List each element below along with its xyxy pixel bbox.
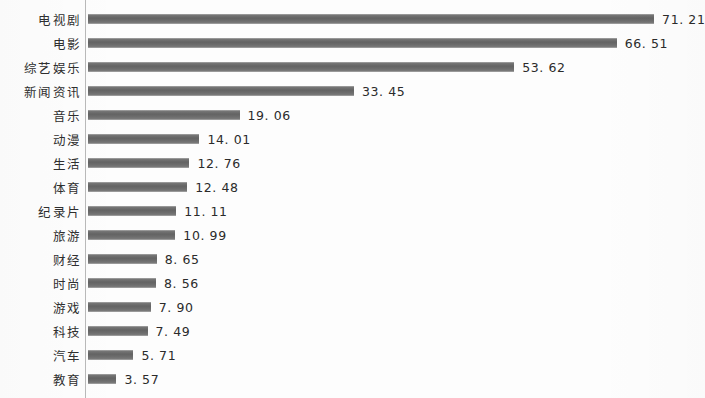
- category-label: 电影: [53, 34, 81, 53]
- bar: [88, 303, 151, 312]
- bar-value-label: 12. 48: [195, 180, 238, 195]
- category-label: 体育: [53, 178, 81, 197]
- bar: [88, 135, 199, 144]
- bar-value-label: 19. 06: [248, 108, 291, 123]
- bar: [88, 159, 189, 168]
- bar-value-label: 10. 99: [183, 228, 226, 243]
- bar-value-label: 66. 51: [625, 36, 668, 51]
- bar: [88, 231, 175, 240]
- plot-area: 电视剧71. 21电影66. 51综艺娱乐53. 62新闻资讯33. 45音乐1…: [0, 0, 705, 398]
- bar-value-label: 8. 56: [164, 276, 199, 291]
- bar-row: 游戏7. 90: [0, 295, 705, 319]
- bar-value-label: 33. 45: [362, 84, 405, 99]
- category-label: 时尚: [53, 274, 81, 293]
- category-label: 纪录片: [38, 202, 81, 221]
- bar-row: 其他5. 68: [0, 391, 705, 398]
- bar-value-label: 5. 71: [141, 348, 176, 363]
- bar: [88, 279, 156, 288]
- bar-row: 教育3. 57: [0, 367, 705, 391]
- bar-row: 生活12. 76: [0, 151, 705, 175]
- bar-value-label: 3. 57: [124, 372, 159, 387]
- bar: [88, 39, 617, 48]
- category-label: 游戏: [53, 298, 81, 317]
- bar: [88, 111, 240, 120]
- bar: [88, 375, 116, 384]
- bar: [88, 15, 654, 24]
- bar-row: 新闻资讯33. 45: [0, 79, 705, 103]
- category-label: 科技: [53, 322, 81, 341]
- category-label: 教育: [53, 370, 81, 389]
- bar: [88, 183, 187, 192]
- bar: [88, 351, 133, 360]
- category-label: 新闻资讯: [24, 82, 81, 101]
- bar-row: 科技7. 49: [0, 319, 705, 343]
- bar-row: 纪录片11. 11: [0, 199, 705, 223]
- bar-row: 汽车5. 71: [0, 343, 705, 367]
- category-label: 综艺娱乐: [24, 58, 81, 77]
- category-label: 音乐: [53, 106, 81, 125]
- category-label: 生活: [53, 154, 81, 173]
- bar-row: 综艺娱乐53. 62: [0, 55, 705, 79]
- category-label: 旅游: [53, 226, 81, 245]
- category-label: 电视剧: [38, 10, 81, 29]
- bar-row: 财经8. 65: [0, 247, 705, 271]
- bar-value-label: 53. 62: [522, 60, 565, 75]
- category-label: 财经: [53, 250, 81, 269]
- bar: [88, 255, 157, 264]
- bar: [88, 87, 354, 96]
- bar-value-label: 8. 65: [165, 252, 200, 267]
- bar-row: 旅游10. 99: [0, 223, 705, 247]
- bar: [88, 327, 148, 336]
- bar-value-label: 11. 11: [184, 204, 227, 219]
- bar: [88, 63, 514, 72]
- bar-row: 动漫14. 01: [0, 127, 705, 151]
- bar-row: 时尚8. 56: [0, 271, 705, 295]
- category-label: 汽车: [53, 346, 81, 365]
- bar-value-label: 12. 76: [197, 156, 240, 171]
- bar-chart: 电视剧71. 21电影66. 51综艺娱乐53. 62新闻资讯33. 45音乐1…: [0, 0, 705, 398]
- bar-value-label: 14. 01: [207, 132, 250, 147]
- bar-row: 电影66. 51: [0, 31, 705, 55]
- bar-row: 音乐19. 06: [0, 103, 705, 127]
- bar-row: 体育12. 48: [0, 175, 705, 199]
- bar: [88, 207, 176, 216]
- category-label: 动漫: [53, 130, 81, 149]
- bar-value-label: 7. 90: [159, 300, 194, 315]
- category-label: 其他: [53, 394, 81, 398]
- bar-value-label: 71. 21: [662, 12, 705, 27]
- bar-value-label: 7. 49: [156, 324, 191, 339]
- bar-row: 电视剧71. 21: [0, 7, 705, 31]
